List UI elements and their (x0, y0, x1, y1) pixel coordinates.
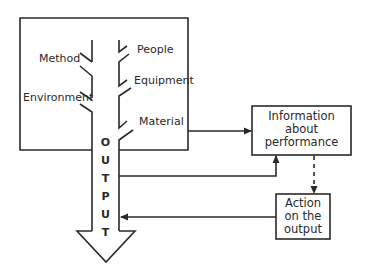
left-branch (80, 40, 92, 231)
output-to-info-arrow (119, 156, 276, 176)
label-equipment: Equipment (134, 75, 194, 87)
right-branch (119, 40, 133, 231)
output-letter-p: P (92, 190, 119, 203)
label-environment: Environment (23, 92, 93, 104)
action-line-3: output (276, 223, 330, 236)
action-box-text: Action on the output (276, 197, 330, 236)
info-box-text: Information about performance (252, 110, 351, 149)
output-letter-t: T (92, 172, 119, 185)
output-letter-u: U (92, 154, 119, 167)
output-letter-t2: T (92, 226, 119, 239)
output-letter-o: O (92, 136, 119, 149)
label-method: Method (39, 53, 80, 65)
output-letter-u2: U (92, 208, 119, 221)
label-people: People (137, 44, 174, 56)
info-line-3: performance (252, 136, 351, 149)
label-material: Material (139, 116, 184, 128)
